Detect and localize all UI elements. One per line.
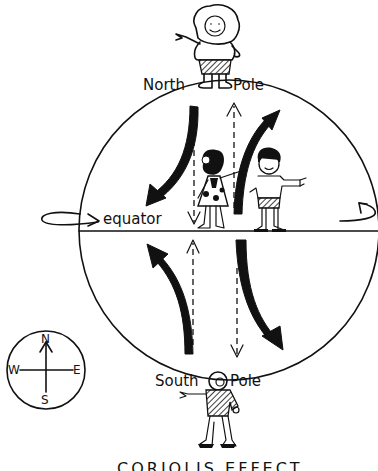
- rotation-arrow-right: [340, 203, 375, 221]
- globe: [79, 80, 378, 380]
- arrow-south-southbound-deflected: [236, 240, 283, 350]
- coriolis-illustration: equator: [0, 0, 378, 471]
- compass-n: N: [41, 332, 50, 346]
- diagram-title: CORIOLIS EFFECT: [117, 459, 303, 471]
- compass-e: E: [73, 363, 81, 377]
- north-pole-label: Pole: [233, 76, 264, 94]
- equator-label: equator: [103, 210, 163, 228]
- compass-s: S: [41, 393, 49, 407]
- arrow-north-southbound-deflected: [146, 106, 198, 206]
- rotation-arrow-left: [42, 212, 99, 226]
- south-label: South: [155, 372, 199, 390]
- arrow-south-northbound-deflected: [147, 244, 193, 354]
- compass-w: W: [8, 363, 20, 377]
- globe-outline: [79, 80, 378, 380]
- south-pole-label: Pole: [230, 372, 261, 390]
- north-label: North: [143, 76, 185, 94]
- boy-figure: [250, 148, 306, 233]
- north-pole-child: [176, 5, 240, 88]
- compass-rose: N S E W: [7, 331, 85, 409]
